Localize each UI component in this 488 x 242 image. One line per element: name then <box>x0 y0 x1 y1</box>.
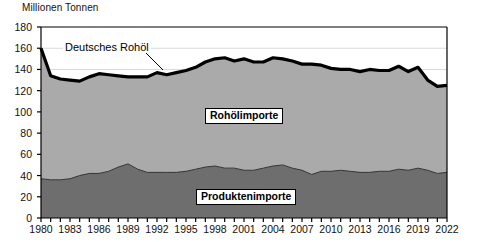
y-tick-label: 40 <box>2 171 32 181</box>
y-tick-label: 120 <box>2 86 32 96</box>
y-tick-label: 180 <box>2 22 32 32</box>
y-tick-label: 80 <box>2 128 32 138</box>
series-label-produktenimporte: Produktenimporte <box>196 189 296 205</box>
y-tick-label: 60 <box>2 149 32 159</box>
annotation-deutsches-rohoel: Deutsches Rohöl <box>63 41 151 53</box>
y-tick-label: 100 <box>2 107 32 117</box>
y-tick-label: 140 <box>2 64 32 74</box>
chart-container: Millionen Tonnen 02040608010012014016018… <box>0 0 488 242</box>
y-tick-label: 0 <box>2 213 32 223</box>
series-label-roholimporte: Rohölimporte <box>205 108 283 124</box>
y-tick-label: 20 <box>2 192 32 202</box>
x-tick-marks <box>41 218 447 222</box>
y-tick-label: 160 <box>2 43 32 53</box>
x-tick-label: 2022 <box>430 224 464 235</box>
